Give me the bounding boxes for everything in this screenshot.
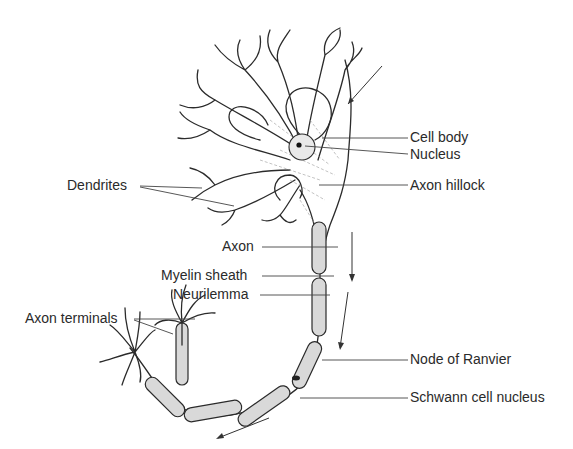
label-schwann-cell-nucleus: Schwann cell nucleus	[410, 389, 545, 405]
label-neurilemma: Neurilemma	[173, 286, 248, 302]
label-cell-body: Cell body	[410, 129, 468, 145]
label-node-of-ranvier: Node of Ranvier	[410, 351, 511, 367]
myelin-segment	[312, 278, 326, 336]
neuron-diagram	[0, 0, 573, 449]
myelin-segment	[312, 222, 326, 274]
nucleus-shape	[289, 134, 315, 160]
label-axon: Axon	[222, 238, 254, 254]
label-axon-hillock: Axon hillock	[410, 177, 485, 193]
dendrites-shape	[178, 28, 362, 225]
label-nucleus: Nucleus	[410, 146, 461, 162]
myelin-segment	[235, 383, 292, 429]
signal-input-arrow	[348, 66, 382, 104]
schwann-nucleus-shape	[292, 376, 300, 381]
axon-conduction-arrow-middle	[338, 292, 348, 350]
myelin-segment	[183, 399, 243, 423]
nucleolus-dot	[296, 142, 301, 147]
label-dendrites: Dendrites	[67, 177, 127, 193]
myelin-segment	[290, 339, 324, 390]
axon-conduction-arrow-upper	[349, 232, 355, 282]
label-myelin-sheath: Myelin sheath	[161, 267, 247, 283]
label-axon-terminals: Axon terminals	[25, 310, 118, 326]
cell-body-shape	[260, 60, 351, 265]
